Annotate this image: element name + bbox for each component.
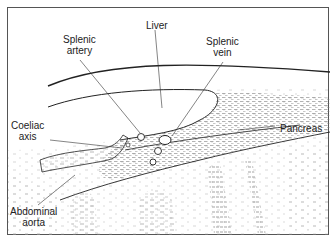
skin-contour xyxy=(48,65,330,86)
splenic-vein-lumen xyxy=(159,136,171,145)
label-coeliac-axis: Coeliac axis xyxy=(11,120,44,142)
label-liver: Liver xyxy=(146,20,168,31)
leader-liver xyxy=(155,30,162,108)
label-splenic-artery: Splenic artery xyxy=(63,34,96,56)
label-splenic-vein: Splenic vein xyxy=(206,36,239,58)
label-abdominal-aorta: Abdominal aorta xyxy=(10,206,57,228)
label-pancreas: Pancreas xyxy=(280,123,322,134)
splenic-artery-lumen xyxy=(138,134,145,141)
